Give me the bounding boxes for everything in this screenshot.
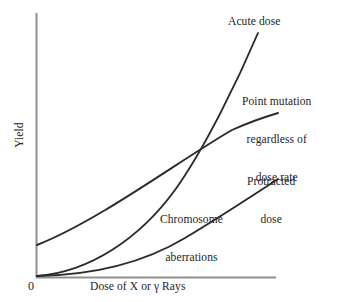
annotation-point-mutation-line2: regardless of: [242, 133, 311, 146]
annotation-point-mutation-line1: Point mutation: [242, 95, 311, 108]
annotation-chromosome-aberrations: Chromosome aberrations: [160, 188, 223, 276]
y-axis-title: Yield: [13, 110, 26, 160]
annotation-protracted-dose-line1: Protracted: [247, 175, 295, 188]
annotation-acute-dose: Acute dose: [228, 15, 280, 28]
annotation-protracted-dose-line2: dose: [247, 213, 295, 226]
annotation-chromosome-aberrations-line1: Chromosome: [160, 213, 223, 226]
x-axis-title: Dose of X or γ Rays: [90, 280, 185, 293]
annotation-protracted-dose: Protracted dose: [247, 150, 295, 238]
x-axis-origin-tick-label: 0: [28, 280, 34, 293]
annotation-chromosome-aberrations-line2: aberrations: [160, 251, 223, 264]
